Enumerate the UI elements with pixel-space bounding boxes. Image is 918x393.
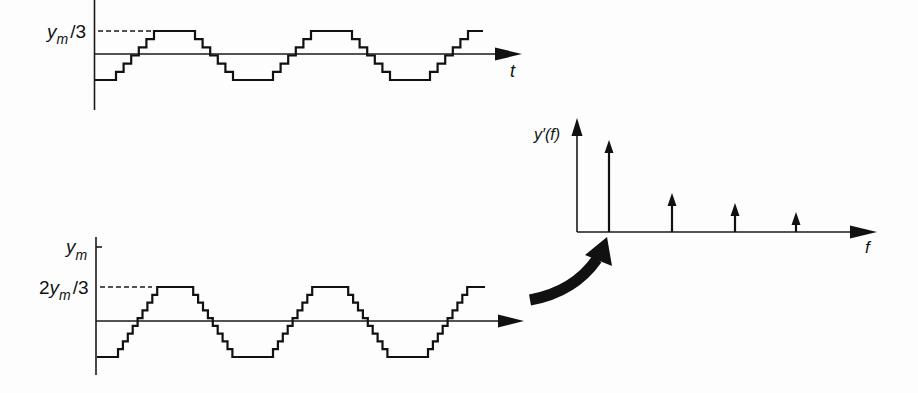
top-level-label: ym/3 xyxy=(45,21,86,47)
quantized-waveform-spectrum-diagram: ym/3 t ym 2ym/3 y′(f) f xyxy=(0,0,918,393)
spectral-line-arrowhead-icon xyxy=(605,140,614,153)
top-level-label-suffix: /3 xyxy=(70,21,86,42)
spectrum-frequency-axis-arrowhead-icon xyxy=(850,226,877,239)
spectral-line-arrowhead-icon xyxy=(792,212,801,225)
top-waveform-panel: ym/3 t xyxy=(45,0,522,110)
time-axis-label: t xyxy=(510,61,516,81)
top-level-label-sub: m xyxy=(57,31,69,47)
spectrum-amplitude-axis-arrowhead-icon xyxy=(572,118,583,136)
transform-arrow-icon xyxy=(530,237,612,300)
top-quantized-waveform xyxy=(95,31,483,80)
spectrum-y-label: y′(f) xyxy=(533,126,560,143)
spectral-line-h5 xyxy=(731,203,740,232)
spectral-line-arrowhead-icon xyxy=(668,193,677,206)
spectral-line-h3 xyxy=(668,193,677,232)
spectrum-panel: y′(f) f xyxy=(533,118,877,257)
bottom-max-label-sub: m xyxy=(76,247,88,263)
spectral-lines xyxy=(605,140,801,232)
bottom-level-label-sub: m xyxy=(59,287,71,303)
spectral-line-h7 xyxy=(792,212,801,232)
bottom-waveform-panel: ym 2ym/3 xyxy=(39,236,524,375)
spectral-line-h1 xyxy=(605,140,614,232)
bottom-level-label-suffix: /3 xyxy=(73,277,89,298)
bottom-level-label-prefix: 2 xyxy=(39,277,50,298)
top-time-axis-arrowhead-icon xyxy=(495,48,522,61)
bottom-max-label: ym xyxy=(64,236,88,263)
bottom-quantized-waveform xyxy=(97,287,485,357)
bottom-time-axis-arrowhead-icon xyxy=(498,315,524,328)
spectrum-x-label: f xyxy=(865,238,872,257)
bottom-level-label: 2ym/3 xyxy=(39,277,89,303)
spectral-line-arrowhead-icon xyxy=(731,203,740,216)
